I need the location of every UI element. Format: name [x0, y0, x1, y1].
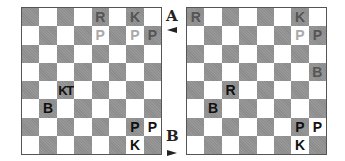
square-g8: K	[126, 8, 143, 26]
piece-white-p: P	[313, 28, 322, 42]
square-g8: K	[291, 8, 308, 26]
chess-board-a: RKPPPKTBPPK	[21, 7, 162, 155]
square-d4	[239, 81, 256, 99]
piece-black-p: P	[148, 120, 157, 134]
square-b3: B	[204, 99, 221, 117]
square-c2	[222, 118, 239, 136]
square-d5	[239, 63, 256, 81]
square-g3	[126, 99, 143, 117]
square-f2	[274, 118, 291, 136]
square-a1	[22, 136, 39, 154]
arrow-left-icon	[167, 27, 177, 33]
square-f2	[109, 118, 126, 136]
square-f8	[109, 8, 126, 26]
square-f1	[274, 136, 291, 154]
square-a6	[187, 45, 204, 63]
square-h3	[309, 99, 326, 117]
square-g2: P	[126, 118, 143, 136]
square-h6	[144, 45, 161, 63]
square-a4	[22, 81, 39, 99]
square-d1	[74, 136, 91, 154]
square-f3	[109, 99, 126, 117]
arrow-right-icon	[167, 150, 177, 156]
square-a3	[22, 99, 39, 117]
square-d4	[74, 81, 91, 99]
square-f8	[274, 8, 291, 26]
square-e5	[257, 63, 274, 81]
square-h8	[144, 8, 161, 26]
square-g1: K	[126, 136, 143, 154]
square-f7	[274, 26, 291, 44]
square-g7: P	[291, 26, 308, 44]
square-f5	[109, 63, 126, 81]
square-b6	[204, 45, 221, 63]
square-d3	[239, 99, 256, 117]
piece-black-k: K	[295, 138, 305, 152]
square-g7: P	[126, 26, 143, 44]
piece-white-p: P	[130, 28, 139, 42]
square-a7	[22, 26, 39, 44]
diagram-label-a: A	[166, 7, 178, 25]
square-b2	[39, 118, 56, 136]
chess-board-b: RKPPBRBPPK	[186, 7, 327, 155]
square-c6	[57, 45, 74, 63]
square-e2	[92, 118, 109, 136]
square-d6	[239, 45, 256, 63]
square-h7: P	[309, 26, 326, 44]
piece-white-p: P	[295, 28, 304, 42]
square-c4: R	[222, 81, 239, 99]
square-e7	[257, 26, 274, 44]
square-f4	[109, 81, 126, 99]
square-h2: P	[309, 118, 326, 136]
square-c5	[57, 63, 74, 81]
piece-white-k: K	[130, 10, 140, 24]
square-h4	[309, 81, 326, 99]
square-d5	[74, 63, 91, 81]
square-c5	[222, 63, 239, 81]
square-h4	[144, 81, 161, 99]
square-a3	[187, 99, 204, 117]
square-e8: R	[92, 8, 109, 26]
square-g2: P	[291, 118, 308, 136]
square-a2	[187, 118, 204, 136]
square-d2	[74, 118, 91, 136]
square-f5	[274, 63, 291, 81]
square-c8	[222, 8, 239, 26]
square-e1	[257, 136, 274, 154]
square-a2	[22, 118, 39, 136]
square-d8	[74, 8, 91, 26]
square-h5	[144, 63, 161, 81]
square-g3	[291, 99, 308, 117]
square-e4	[257, 81, 274, 99]
square-c3	[57, 99, 74, 117]
square-f1	[109, 136, 126, 154]
square-e5	[92, 63, 109, 81]
square-c8	[57, 8, 74, 26]
square-a7	[187, 26, 204, 44]
square-a1	[187, 136, 204, 154]
square-b6	[39, 45, 56, 63]
piece-black-p: P	[295, 120, 304, 134]
piece-black-p: P	[130, 120, 139, 134]
square-c1	[57, 136, 74, 154]
piece-black-b: B	[208, 101, 218, 115]
square-b7	[204, 26, 221, 44]
square-f7	[109, 26, 126, 44]
square-d3	[74, 99, 91, 117]
square-e6	[92, 45, 109, 63]
square-a8: R	[187, 8, 204, 26]
piece-white-b: B	[312, 65, 322, 79]
piece-black-b: B	[43, 101, 53, 115]
square-h8	[309, 8, 326, 26]
square-h6	[309, 45, 326, 63]
square-d7	[74, 26, 91, 44]
square-g4	[126, 81, 143, 99]
piece-black-kt: KT	[58, 84, 72, 97]
square-e2	[257, 118, 274, 136]
square-c1	[222, 136, 239, 154]
square-h3	[144, 99, 161, 117]
square-b2	[204, 118, 221, 136]
square-a5	[22, 63, 39, 81]
square-f6	[274, 45, 291, 63]
square-g4	[291, 81, 308, 99]
